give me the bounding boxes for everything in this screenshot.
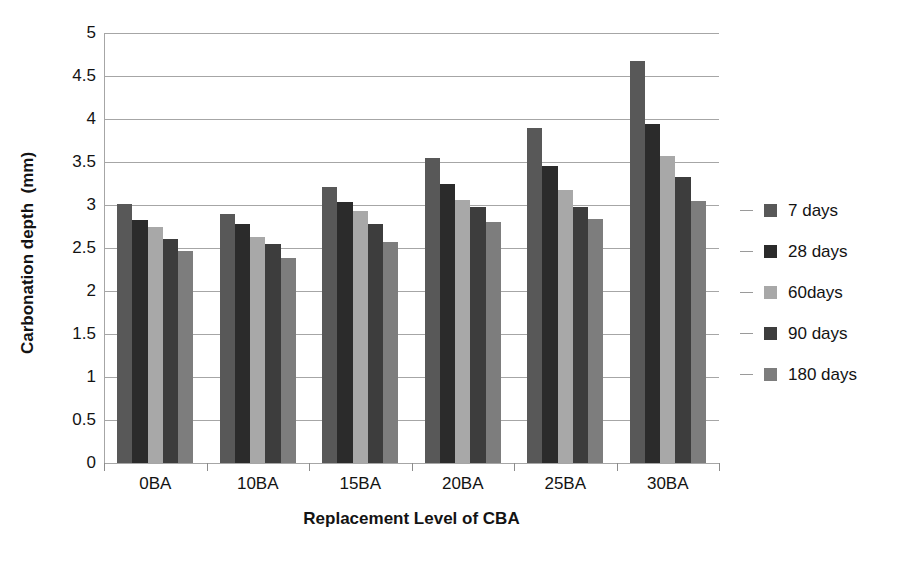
y-axis-tick-label: 2.5 [36, 238, 96, 258]
legend-swatch-icon [764, 286, 777, 299]
bar [235, 224, 250, 463]
bar [117, 204, 132, 463]
bar [573, 207, 588, 463]
bar [542, 166, 557, 463]
x-axis-tick-label: 0BA [139, 474, 171, 494]
x-axis-tick-label: 15BA [339, 474, 381, 494]
bar [691, 201, 706, 463]
bar [220, 214, 235, 463]
legend-item[interactable]: 90 days [764, 313, 857, 354]
bar [178, 251, 193, 463]
bar [630, 61, 645, 463]
legend-item[interactable]: 180 days [764, 354, 857, 395]
y-axis-tick-label: 4 [36, 109, 96, 129]
y-axis-tick-label: 1 [36, 367, 96, 387]
bar [353, 211, 368, 463]
bar [163, 239, 178, 463]
legend-item[interactable]: 60days [764, 272, 857, 313]
legend-label: 90 days [788, 324, 848, 344]
bar [527, 128, 542, 463]
bar [558, 190, 573, 463]
legend-swatch-icon [764, 204, 777, 217]
x-axis-tick-label: 20BA [442, 474, 484, 494]
legend-tick-mark [740, 210, 753, 211]
x-axis-tick-mark [104, 463, 105, 471]
bar [425, 158, 440, 463]
legend-tick-mark [740, 292, 753, 293]
bar [675, 177, 690, 463]
bar [383, 242, 398, 463]
y-axis-tick-label: 3.5 [36, 152, 96, 172]
bar [660, 156, 675, 463]
y-axis-tick-label: 1.5 [36, 324, 96, 344]
bar [281, 258, 296, 463]
bar [132, 220, 147, 463]
legend-swatch-icon [764, 245, 777, 258]
x-axis-tick-label: 10BA [237, 474, 279, 494]
legend-label: 60days [788, 283, 843, 303]
x-axis-tick-label: 30BA [647, 474, 689, 494]
x-axis-title: Replacement Level of CBA [104, 509, 719, 529]
bar [250, 237, 265, 463]
legend-label: 180 days [788, 365, 857, 385]
bar [470, 207, 485, 463]
x-axis-tick-mark [309, 463, 310, 471]
x-axis-tick-mark [719, 463, 720, 471]
bar [368, 224, 383, 463]
y-axis-tick-label: 2 [36, 281, 96, 301]
legend-tick-mark [740, 374, 753, 375]
bar [148, 227, 163, 464]
bars-layer [104, 33, 719, 463]
y-axis-tick-label: 0.5 [36, 410, 96, 430]
x-axis-tick-mark [514, 463, 515, 471]
legend-swatch-icon [764, 327, 777, 340]
bar [645, 124, 660, 463]
bar [265, 244, 280, 463]
bar [455, 200, 470, 463]
bar [322, 187, 337, 463]
bar [486, 222, 501, 463]
carbonation-depth-bar-chart: Carbonation depth (mm) 00.511.522.533.54… [0, 0, 898, 561]
x-axis-tick-label: 25BA [544, 474, 586, 494]
bar [588, 219, 603, 463]
y-axis-tick-group: 00.511.522.533.544.55 [30, 33, 96, 463]
legend-tick-mark [740, 333, 753, 334]
y-axis-tick-label: 4.5 [36, 66, 96, 86]
y-axis-tick-label: 3 [36, 195, 96, 215]
legend-swatch-icon [764, 368, 777, 381]
x-axis-tick-mark [617, 463, 618, 471]
legend-item[interactable]: 28 days [764, 231, 857, 272]
legend-label: 28 days [788, 242, 848, 262]
legend-label: 7 days [788, 201, 838, 221]
legend: 7 days28 days60days90 days180 days [764, 190, 857, 395]
bar [440, 184, 455, 463]
x-axis-tick-mark [207, 463, 208, 471]
bar [337, 202, 352, 463]
legend-item[interactable]: 7 days [764, 190, 857, 231]
y-axis-tick-label: 5 [36, 23, 96, 43]
legend-tick-mark [740, 251, 753, 252]
y-axis-tick-label: 0 [36, 453, 96, 473]
x-axis-tick-mark [412, 463, 413, 471]
